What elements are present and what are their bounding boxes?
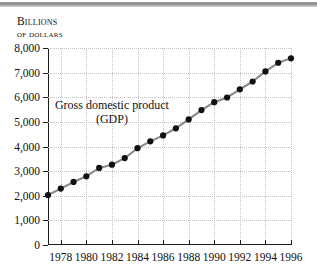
- x-axis-tick-label: 1984: [126, 251, 149, 263]
- data-point-marker: [96, 165, 102, 171]
- y-axis-unit-line1: Billions: [17, 16, 63, 28]
- data-point-marker: [224, 94, 230, 100]
- x-axis-tick-label: 1994: [254, 251, 277, 263]
- data-point-marker: [122, 155, 128, 161]
- x-axis-tick-label: 1996: [280, 251, 303, 263]
- y-axis-tick-label: 0: [34, 239, 40, 251]
- data-point-marker: [160, 132, 166, 138]
- annotation-line2: (GDP): [55, 112, 169, 126]
- data-point-marker: [83, 173, 89, 179]
- y-axis-tick-label: 5,000: [14, 116, 40, 128]
- series-annotation-label: Gross domestic product (GDP): [55, 98, 169, 126]
- top-divider-rule: [0, 2, 317, 7]
- x-axis-tick-label: 1992: [228, 251, 251, 263]
- y-axis-tick-label: 7,000: [14, 67, 40, 79]
- data-point-marker: [109, 162, 115, 168]
- gridline-vertical: [291, 48, 292, 245]
- annotation-line1: Gross domestic product: [55, 98, 169, 112]
- y-axis-unit-line2: of dollars: [17, 28, 63, 40]
- x-axis-tick-label: 1986: [152, 251, 175, 263]
- data-point-marker: [262, 68, 268, 74]
- y-axis-tick-label: 6,000: [14, 91, 40, 103]
- y-axis-tick-label: 1,000: [14, 214, 40, 226]
- data-point-marker: [70, 179, 76, 185]
- data-point-marker: [147, 138, 153, 144]
- x-axis-tick-label: 1980: [75, 251, 98, 263]
- x-axis-tick-label: 1978: [49, 251, 72, 263]
- data-point-marker: [250, 78, 256, 84]
- data-point-marker: [275, 60, 281, 66]
- x-axis-tick-label: 1982: [100, 251, 123, 263]
- data-point-marker: [186, 116, 192, 122]
- y-axis-tick-label: 4,000: [14, 141, 40, 153]
- data-point-marker: [58, 186, 64, 192]
- chart-plot-area: 01,0002,0003,0004,0005,0006,0007,0008,00…: [48, 48, 291, 245]
- data-point-marker: [211, 99, 217, 105]
- x-axis-tick: [291, 240, 292, 245]
- y-axis-tick-label: 3,000: [14, 165, 40, 177]
- data-point-marker: [237, 86, 243, 92]
- data-point-marker: [198, 107, 204, 113]
- y-axis-tick: [43, 245, 48, 246]
- gdp-line-series: [48, 48, 291, 245]
- data-point-marker: [173, 125, 179, 131]
- y-axis-tick-label: 2,000: [14, 190, 40, 202]
- data-point-marker: [134, 145, 140, 151]
- y-axis-unit-title: Billions of dollars: [17, 16, 63, 39]
- y-axis-tick-label: 8,000: [14, 42, 40, 54]
- x-axis-tick-label: 1988: [177, 251, 200, 263]
- x-axis-tick-label: 1990: [203, 251, 226, 263]
- data-point-marker: [45, 192, 51, 198]
- data-point-marker: [288, 55, 294, 61]
